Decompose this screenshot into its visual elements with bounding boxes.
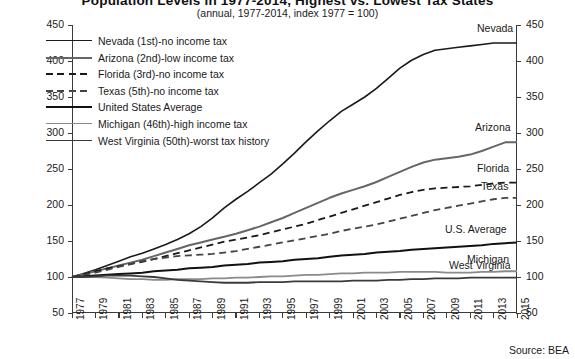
x-axis-tick-label: 1977: [76, 298, 86, 320]
x-axis-tick: [165, 313, 166, 318]
x-axis-tick-label: 1981: [123, 298, 133, 320]
legend-item[interactable]: United States Average: [46, 99, 316, 116]
series-end-label: Nevada: [477, 23, 513, 34]
source-note: Source: BEA: [509, 344, 569, 356]
x-axis-tick-label: 1983: [146, 298, 156, 320]
legend-item[interactable]: Michigan (46th)-high income tax: [46, 116, 316, 133]
x-axis-tick-label: 2013: [498, 298, 508, 320]
x-axis-tick-label: 2005: [404, 298, 414, 320]
y-axis-left-tick: [68, 169, 73, 170]
y-axis-left-tick: [68, 25, 73, 26]
y-axis-right-tick-label: 200: [526, 199, 544, 210]
x-axis-tick: [72, 313, 73, 318]
legend-item[interactable]: Texas (5th)-no income tax: [46, 83, 316, 100]
legend-item-label: Florida (3rd)-no income tax: [98, 66, 224, 82]
legend-swatch-line: [46, 90, 92, 92]
legend-swatch-line: [46, 73, 92, 75]
x-axis-tick: [282, 313, 283, 318]
x-axis-tick: [493, 313, 494, 318]
y-axis-right-tick-label: 350: [526, 91, 544, 102]
x-axis-tick: [517, 313, 518, 318]
y-axis-left-tick-label: 100: [30, 271, 64, 282]
series-end-label: U.S. Average: [445, 224, 507, 235]
y-axis-left-tick-label: 200: [30, 199, 64, 210]
legend-item-label: Texas (5th)-no income tax: [98, 83, 219, 99]
x-axis-tick-label: 1979: [99, 298, 109, 320]
x-axis-tick-label: 1987: [193, 298, 203, 320]
y-axis-right-tick-label: 400: [526, 55, 544, 66]
y-axis-right-tick: [516, 25, 521, 26]
x-axis-tick: [142, 313, 143, 318]
y-axis-left-tick-label: 50: [30, 307, 64, 318]
series-end-label: Florida: [477, 163, 509, 174]
y-axis-right-tick-label: 100: [526, 271, 544, 282]
legend-item-label: Michigan (46th)-high income tax: [98, 116, 247, 132]
y-axis-right-tick: [516, 97, 521, 98]
legend-swatch-line: [46, 140, 92, 141]
legend-item-label: United States Average: [98, 99, 202, 115]
x-axis-tick-label: 2009: [451, 298, 461, 320]
x-axis-tick-label: 1999: [334, 298, 344, 320]
x-axis-tick: [235, 313, 236, 318]
legend-item-label: Nevada (1st)-no income tax: [98, 33, 227, 49]
legend-swatch-line: [46, 123, 92, 124]
x-axis-tick: [259, 313, 260, 318]
series-end-label: West Virginia: [449, 260, 510, 271]
x-axis-tick: [189, 313, 190, 318]
x-axis-tick: [423, 313, 424, 318]
x-axis-tick-label: 2015: [521, 298, 531, 320]
legend-item[interactable]: Nevada (1st)-no income tax: [46, 33, 316, 50]
x-axis-tick: [353, 313, 354, 318]
x-axis-tick: [376, 313, 377, 318]
legend-item-label: Arizona (2nd)-low income tax: [98, 50, 234, 66]
x-axis-tick-label: 1985: [170, 298, 180, 320]
x-axis-tick-label: 1989: [217, 298, 227, 320]
x-axis-tick: [212, 313, 213, 318]
y-axis-left-tick-label: 450: [30, 19, 64, 30]
y-axis-right-tick: [516, 241, 521, 242]
x-axis-tick-label: 2011: [474, 298, 484, 320]
y-axis-left-tick: [68, 205, 73, 206]
chart-legend: Nevada (1st)-no income taxArizona (2nd)-…: [46, 33, 316, 149]
x-axis-tick: [446, 313, 447, 318]
x-axis-tick-label: 2001: [357, 298, 367, 320]
y-axis-right-tick: [516, 277, 521, 278]
x-axis-tick: [470, 313, 471, 318]
y-axis-right-tick: [516, 61, 521, 62]
y-axis-right-tick-label: 150: [526, 235, 544, 246]
chart-subtitle: (annual, 1977-2014, index 1977 = 100): [0, 7, 575, 19]
y-axis-right-tick: [516, 169, 521, 170]
series-end-label: Texas: [481, 181, 508, 192]
y-axis-left-tick: [68, 241, 73, 242]
x-axis-tick-label: 1991: [240, 298, 250, 320]
legend-item[interactable]: Florida (3rd)-no income tax: [46, 66, 316, 83]
series-line-arizona: [72, 142, 517, 277]
y-axis-right-tick: [516, 205, 521, 206]
x-axis-tick-label: 1995: [287, 298, 297, 320]
x-axis-tick: [329, 313, 330, 318]
x-axis-tick: [118, 313, 119, 318]
y-axis-right-tick-label: 250: [526, 163, 544, 174]
legend-swatch-line: [46, 106, 92, 108]
x-axis-tick-label: 1997: [310, 298, 320, 320]
x-axis-tick: [399, 313, 400, 318]
y-axis-right-tick-label: 450: [526, 19, 544, 30]
x-axis-tick: [306, 313, 307, 318]
y-axis-right-tick: [516, 133, 521, 134]
series-end-label: Arizona: [475, 122, 511, 133]
y-axis-left-tick-label: 250: [30, 163, 64, 174]
y-axis-right-tick-label: 300: [526, 127, 544, 138]
legend-swatch-line: [46, 40, 92, 41]
y-axis-left-tick: [68, 277, 73, 278]
legend-item-label: West Virginia (50th)-worst tax history: [98, 133, 269, 149]
chart-root: Population Levels in 1977-2014, Highest …: [0, 0, 575, 359]
x-axis-tick-label: 2007: [427, 298, 437, 320]
y-axis-left-tick-label: 150: [30, 235, 64, 246]
x-axis-tick-label: 1993: [263, 298, 273, 320]
legend-swatch-line: [46, 57, 92, 59]
legend-item[interactable]: Arizona (2nd)-low income tax: [46, 50, 316, 67]
x-axis-tick: [95, 313, 96, 318]
x-axis-tick-label: 2003: [380, 298, 390, 320]
legend-item[interactable]: West Virginia (50th)-worst tax history: [46, 133, 316, 150]
